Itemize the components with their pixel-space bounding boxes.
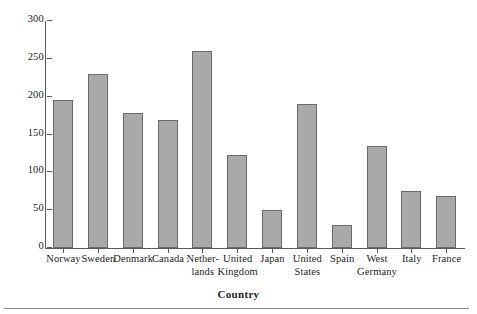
x-axis-title: Country bbox=[0, 288, 477, 300]
bar[interactable] bbox=[158, 120, 178, 248]
x-axis-line bbox=[45, 248, 465, 249]
category-label-line: States bbox=[281, 266, 333, 279]
y-axis-tick-label: 300 bbox=[28, 13, 44, 25]
bar-group bbox=[256, 21, 289, 248]
bar[interactable] bbox=[262, 210, 282, 248]
bar[interactable] bbox=[297, 104, 317, 248]
plot-area bbox=[45, 21, 463, 248]
bar[interactable] bbox=[123, 113, 143, 248]
y-axis-tick-label: 0 bbox=[39, 240, 44, 252]
bar[interactable] bbox=[88, 74, 108, 248]
bar-group bbox=[326, 21, 359, 248]
y-axis-tick-label: 250 bbox=[28, 51, 44, 63]
bar[interactable] bbox=[367, 146, 387, 248]
bar-group bbox=[395, 21, 428, 248]
bar[interactable] bbox=[332, 225, 352, 248]
bar-chart-figure: 050100150200250300 NorwaySwedenDenmarkCa… bbox=[0, 0, 477, 314]
category-label-line: France bbox=[421, 253, 473, 266]
category-label-line: Kingdom bbox=[212, 266, 264, 279]
bar-group bbox=[361, 21, 394, 248]
bar[interactable] bbox=[192, 51, 212, 248]
bar[interactable] bbox=[53, 100, 73, 248]
bar-group bbox=[152, 21, 185, 248]
bar[interactable] bbox=[227, 155, 247, 248]
x-axis-category-labels: NorwaySwedenDenmarkCanadaNether-landsUni… bbox=[45, 253, 463, 287]
category-label-line: Germany bbox=[351, 266, 403, 279]
y-axis-tick-label: 100 bbox=[28, 164, 44, 176]
bar[interactable] bbox=[401, 191, 421, 248]
bar-group bbox=[430, 21, 463, 248]
bar-group bbox=[82, 21, 115, 248]
y-axis-tick-label: 150 bbox=[28, 127, 44, 139]
bar-group bbox=[117, 21, 150, 248]
bar-group bbox=[221, 21, 254, 248]
bar[interactable] bbox=[436, 196, 456, 248]
bar-group bbox=[47, 21, 80, 248]
bottom-divider bbox=[4, 308, 469, 309]
y-axis-tick-label: 50 bbox=[33, 202, 44, 214]
bar-group bbox=[291, 21, 324, 248]
x-axis-category-label: France bbox=[421, 253, 473, 266]
bar-group bbox=[186, 21, 219, 248]
y-axis-tick-label: 200 bbox=[28, 89, 44, 101]
